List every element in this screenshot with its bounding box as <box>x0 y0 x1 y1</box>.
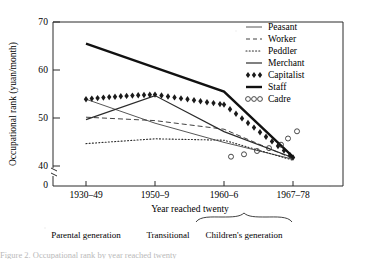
figure-chart: 70 60 50 40 0 Occupational rank (yuan/mo… <box>0 0 375 259</box>
legend-label-worker: Worker <box>268 34 297 44</box>
x-axis-title: Year reached twenty <box>151 204 229 214</box>
legend-swatch-cadre <box>246 97 263 102</box>
legend-label-merchant: Merchant <box>268 58 305 68</box>
series-line-peddler <box>86 139 293 160</box>
y-tick-label-0: 0 <box>43 180 48 190</box>
x-tick-label-4: 1967–78 <box>276 190 310 200</box>
y-tick-label-40: 40 <box>38 161 48 171</box>
y-tick-label-70: 70 <box>38 17 48 27</box>
legend-label-staff: Staff <box>268 82 287 92</box>
annotation-childrens-generation: Children's generation <box>206 230 283 240</box>
y-axis-title: Occupational rank (yuan/month) <box>8 42 19 166</box>
y-tick-label-60: 60 <box>38 65 48 75</box>
x-tick-label-3: 1960–6 <box>210 190 239 200</box>
x-tick-label-2: 1950–9 <box>141 190 170 200</box>
caption-sliver: Figure 2. Occupational rank by year reac… <box>0 250 375 259</box>
series-markers-capitalist <box>84 91 295 160</box>
generation-brace <box>196 213 292 222</box>
x-tick-label-1: 1930–49 <box>69 190 103 200</box>
series-line-worker <box>86 117 293 159</box>
legend-label-cadre: Cadre <box>268 94 291 104</box>
legend: Peasant Worker Peddler Merchant Capitali… <box>246 22 305 104</box>
y-axis-ticks <box>53 22 60 166</box>
y-tick-label-50: 50 <box>38 113 48 123</box>
legend-swatch-capitalist <box>246 72 262 78</box>
annotation-parental-generation: Parental generation <box>51 230 121 240</box>
legend-label-capitalist: Capitalist <box>268 70 305 80</box>
chart-svg: 70 60 50 40 0 Occupational rank (yuan/mo… <box>0 0 375 259</box>
x-axis-ticks <box>86 181 293 186</box>
legend-label-peasant: Peasant <box>268 22 297 32</box>
legend-label-peddler: Peddler <box>268 46 298 56</box>
annotation-transitional: Transitional <box>146 230 190 240</box>
